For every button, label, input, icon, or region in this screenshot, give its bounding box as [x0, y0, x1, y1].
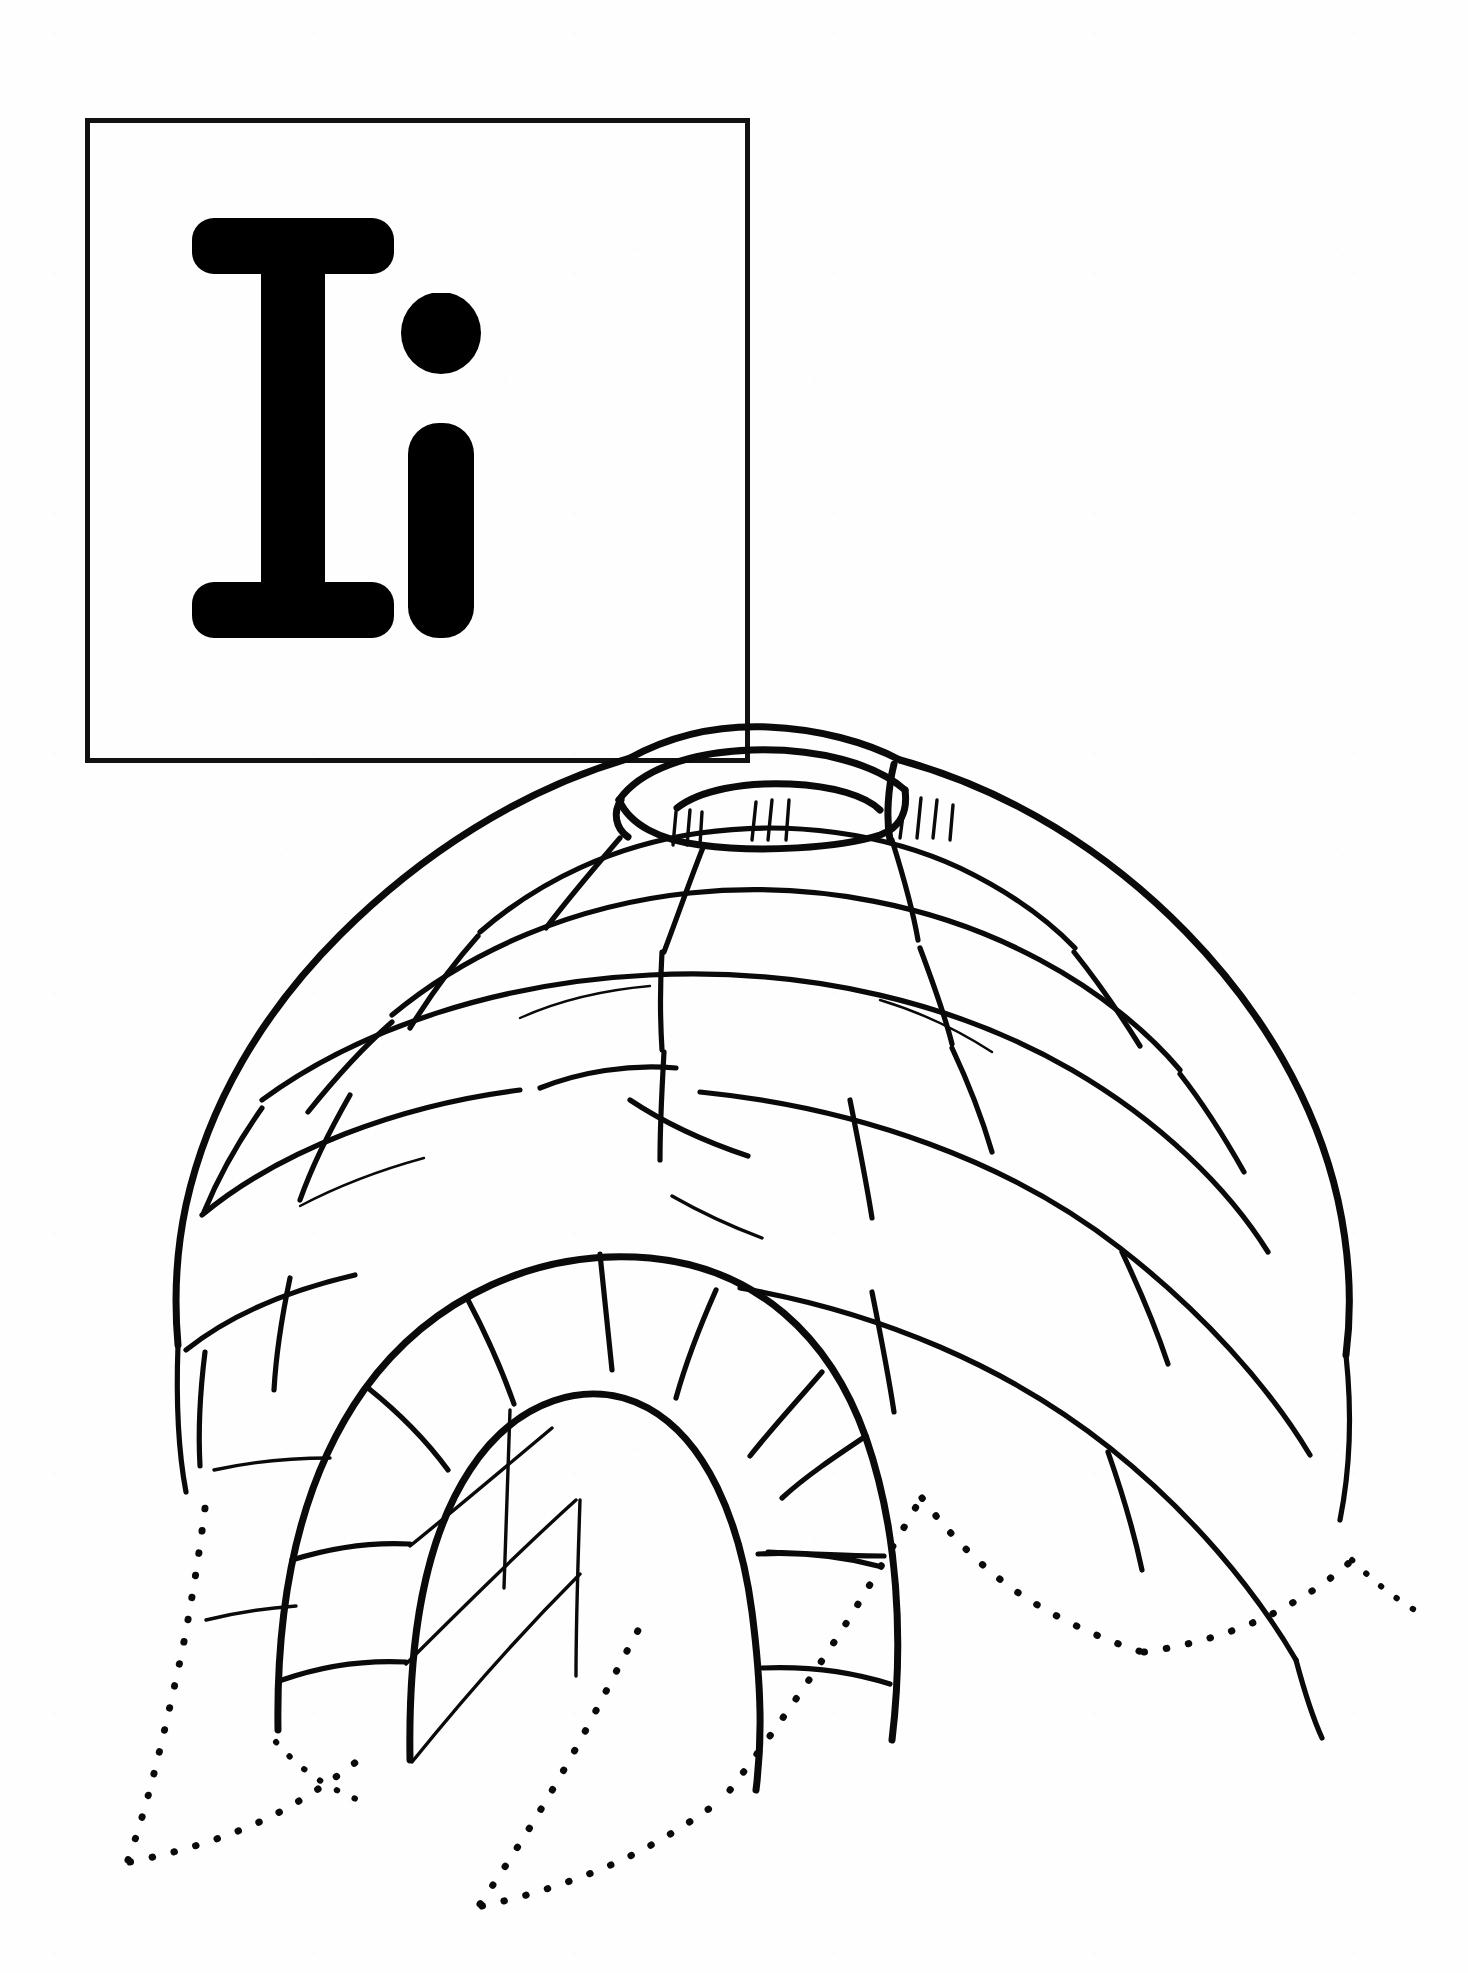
- igloo-base: [177, 1345, 1349, 1738]
- snow-drift-dotted: [128, 1498, 1418, 1906]
- worksheet-page: I i I i: [0, 0, 1468, 1973]
- igloo-dome-outline: [176, 727, 1349, 1355]
- igloo-lower-blocks: [206, 1067, 762, 1620]
- letter-pair: I i I i: [90, 123, 745, 758]
- igloo-block-courses: [186, 828, 1310, 1660]
- smoke-hole-hatching: [673, 798, 953, 845]
- lowercase-letter-i: i: [393, 293, 489, 638]
- igloo-sketch-accents: [300, 986, 992, 1206]
- igloo-smoke-hole: [616, 750, 953, 849]
- letter-box: I i I i: [85, 118, 750, 763]
- uppercase-letter-i: I: [178, 218, 408, 638]
- igloo-block-seams: [199, 838, 1244, 1570]
- igloo-entrance-tunnel: [278, 1254, 898, 1790]
